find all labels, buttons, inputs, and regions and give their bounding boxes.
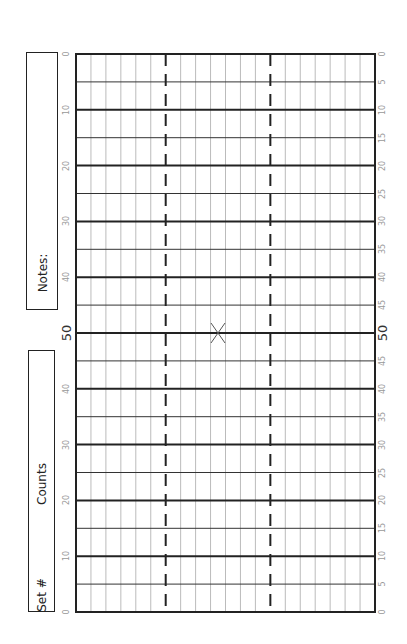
right-axis-label: 5 [377,569,389,599]
left-axis-label: 10 [61,541,73,571]
right-axis-label: 30 [377,430,389,460]
left-axis-label: 20 [61,485,73,515]
right-axis-label: 45 [377,346,389,376]
left-axis-label: 0 [61,597,73,627]
right-axis-label: 25 [377,179,389,209]
left-axis-label: 0 [61,39,73,69]
right-axis-label: 30 [377,206,389,236]
right-axis-label: 10 [377,541,389,571]
right-axis-label: 0 [377,39,389,69]
right-axis-label: 35 [377,234,389,264]
right-axis-label: 40 [377,374,389,404]
right-axis-label: 45 [377,290,389,320]
left-axis-label: 20 [61,151,73,181]
right-axis-label: 20 [377,485,389,515]
left-axis-label: 30 [61,430,73,460]
left-axis-label: 10 [61,95,73,125]
right-axis-label: 5 [377,67,389,97]
right-axis-label: 0 [377,597,389,627]
right-axis-label: 35 [377,402,389,432]
left-axis-label: 40 [61,374,73,404]
right-axis-label: 10 [377,95,389,125]
left-axis-label: 30 [61,206,73,236]
right-axis-label: 15 [377,123,389,153]
right-axis-label: 25 [377,458,389,488]
right-axis-label: 15 [377,513,389,543]
right-axis-label: 50 [375,318,391,348]
right-axis-label: 20 [377,151,389,181]
left-axis-label: 40 [61,262,73,292]
right-axis-label: 40 [377,262,389,292]
left-axis-label: 50 [59,318,75,348]
